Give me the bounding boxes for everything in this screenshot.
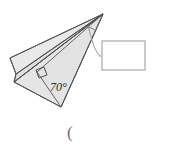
angle-label-70: 70° — [50, 80, 67, 94]
answer-box[interactable] — [102, 41, 145, 70]
answer-box-group[interactable] — [102, 41, 145, 70]
open-paren-label: ( — [67, 123, 73, 142]
paper-airplane-figure: 70° ( — [0, 0, 173, 146]
figure-root: 70° ( — [0, 0, 173, 146]
